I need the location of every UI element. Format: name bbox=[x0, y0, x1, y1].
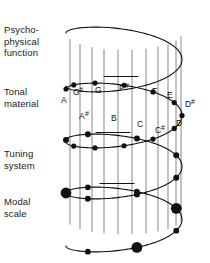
note-label: B bbox=[111, 113, 117, 123]
note-label: G bbox=[95, 85, 102, 95]
modal-marker bbox=[132, 242, 143, 253]
note-marker bbox=[63, 86, 68, 91]
helix-curve bbox=[66, 27, 182, 252]
note-marker bbox=[150, 136, 155, 141]
note-label-sharp: # bbox=[85, 110, 89, 117]
note-marker bbox=[172, 100, 177, 105]
note-label: A# bbox=[79, 110, 89, 121]
pitch-helix-diagram: AG#GF#FED#DC#CBA# bbox=[0, 0, 210, 263]
note-label-letter: F bbox=[152, 86, 157, 96]
figure-canvas: Psycho- physical function Tonal material… bbox=[0, 0, 210, 263]
note-label-sharp: # bbox=[161, 124, 165, 131]
note-label-letter: G bbox=[95, 85, 102, 95]
note-marker bbox=[92, 145, 97, 150]
tuning-marker bbox=[173, 152, 179, 158]
note-label: A bbox=[61, 95, 67, 105]
modal-marker bbox=[85, 249, 91, 255]
note-label-sharp: # bbox=[125, 82, 129, 89]
note-label-letter: F bbox=[119, 83, 124, 93]
note-label: F# bbox=[119, 82, 129, 93]
note-label-letter: A bbox=[61, 95, 67, 105]
note-marker bbox=[121, 143, 126, 148]
note-label: D bbox=[176, 118, 182, 128]
note-label-letter: E bbox=[167, 90, 173, 100]
note-label: C bbox=[137, 119, 143, 129]
note-label-letter: B bbox=[111, 113, 117, 123]
note-marker bbox=[71, 143, 76, 148]
modal-marker bbox=[61, 188, 72, 199]
note-label: D# bbox=[185, 98, 195, 109]
modal-marker bbox=[134, 189, 140, 195]
note-label: G# bbox=[73, 86, 83, 97]
modal-marker bbox=[171, 203, 182, 214]
note-label: F bbox=[152, 86, 157, 96]
note-label-letter: C bbox=[137, 119, 143, 129]
tuning-marker bbox=[63, 137, 69, 143]
tuning-marker bbox=[85, 131, 91, 137]
tuning-marker bbox=[173, 175, 179, 181]
note-label: E bbox=[167, 90, 173, 100]
note-label: C# bbox=[155, 124, 165, 135]
tuning-marker bbox=[134, 136, 140, 142]
note-label-letter: D bbox=[176, 118, 182, 128]
modal-marker bbox=[173, 228, 179, 234]
note-label-sharp: # bbox=[79, 86, 83, 93]
modal-marker bbox=[85, 184, 91, 190]
note-markers bbox=[61, 81, 185, 255]
tuning-marker bbox=[85, 196, 91, 202]
note-label-sharp: # bbox=[191, 98, 195, 105]
